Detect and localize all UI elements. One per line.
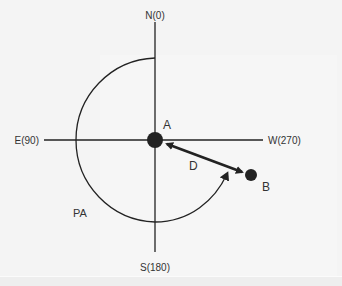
point-a-label: A	[163, 118, 171, 132]
point-b-label: B	[262, 180, 270, 194]
point-b	[245, 169, 257, 181]
separation-label: D	[189, 159, 198, 173]
north-label: N(0)	[145, 10, 164, 21]
south-label: S(180)	[140, 262, 170, 273]
east-label: E(90)	[15, 135, 39, 146]
west-label: W(270)	[268, 135, 301, 146]
point-a	[147, 132, 163, 148]
separation-arrow	[167, 144, 242, 172]
position-angle-label: PA	[73, 207, 88, 219]
